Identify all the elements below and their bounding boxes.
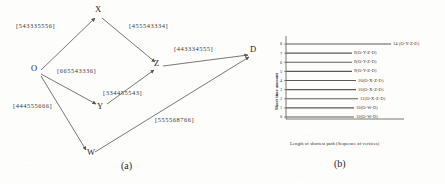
y-axis-tick-label: 2 [273,96,282,101]
edge-Y-Z [107,70,154,104]
bar-chart-panel: Short time amount 012345678 10(O-W-D)10(… [254,0,445,184]
node-label-Y: Y [97,101,103,111]
edge-label-O-Y: [665543336] [57,67,96,74]
node-label-O: O [31,63,37,73]
y-axis-tick-label: 7 [273,51,282,56]
bar-label: 10(O-W-D) [356,114,378,119]
edge-O-W [41,76,86,150]
edge-Z-D [163,55,248,66]
y-axis-tick-label: 4 [273,78,282,83]
edge-label-Y-Z: [334455543] [103,89,142,96]
edge-label-W-D: [555568766] [155,116,194,123]
bar-label: 10(O-X-Z-D) [358,87,384,92]
bar-label: 10(O-W-D) [356,105,378,110]
y-axis-tick-label: 3 [273,87,282,92]
edge-label-O-X: [543335556] [16,22,55,29]
bar-label: 11(O-X-Z-D) [360,96,385,101]
bar-label: 14 (O-Y-Z-D) [393,41,419,46]
figure-page: . . . . . . . . . . . . . O X Y Z [0,0,445,184]
y-axis-tick-label: 6 [273,60,282,65]
edge-label-Z-D: [443334555] [174,45,213,52]
bar-label: 9(O-Y-Z-D) [354,68,377,73]
chart-svg [254,0,445,184]
edge-label-X-Z: [455543334] [129,22,168,29]
bar-label: 9(O-Y-Z-D) [354,59,377,64]
edge-label-O-W: [444555666] [13,102,52,109]
panel-b-caption: (b) [334,158,346,169]
y-axis-tick-label: 1 [273,105,282,110]
y-axis-tick-label: 0 [273,114,282,119]
bar-label: 9(O-Y-Z-D) [354,50,377,55]
directed-graph-panel: O X Y Z W D [543335556] [455543334] [443… [0,0,262,184]
node-label-X: X [95,4,101,14]
bar-label: 10(O-X-Z-D) [358,78,384,83]
y-axis-tick-label: 8 [273,41,282,46]
panel-a-caption: (a) [121,160,132,171]
x-axis-title: Length of shortest path (Sequence of ver… [290,141,379,146]
node-label-Z: Z [154,58,159,68]
node-label-W: W [87,147,95,157]
edge-W-D [95,57,249,152]
y-axis-tick-label: 5 [273,69,282,74]
